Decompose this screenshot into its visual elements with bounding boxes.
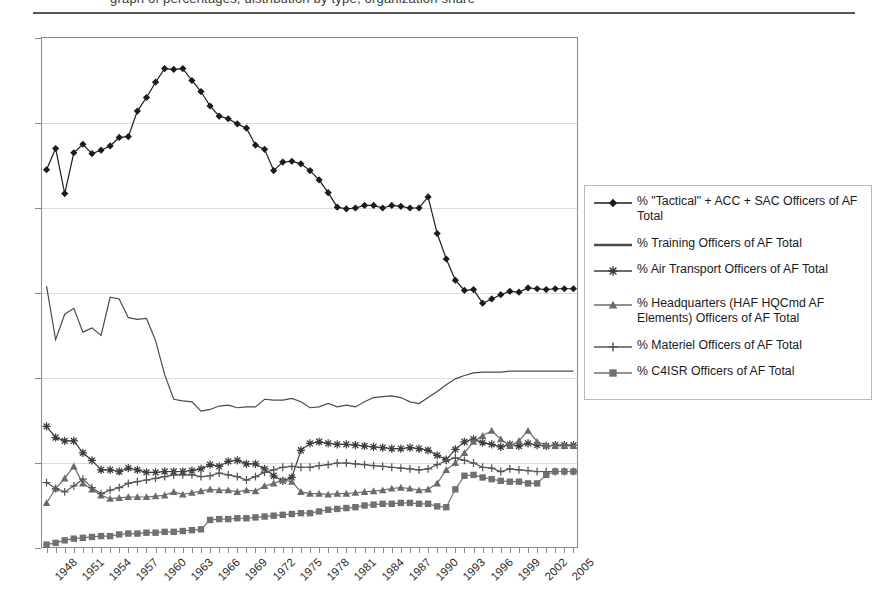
data-point-marker [180,528,186,534]
data-point-marker [243,125,250,132]
data-point-marker [106,466,114,474]
legend-item-label: % Materiel Officers of AF Total [635,338,802,353]
legend-item[interactable]: % Training Officers of AF Total [591,236,865,253]
data-point-marker [397,203,404,210]
data-point-marker [406,204,413,211]
data-point-marker [406,465,414,473]
data-point-marker [506,465,514,473]
data-point-marker [70,437,78,445]
data-point-marker [561,285,568,292]
data-point-marker [142,468,150,476]
data-point-marker [62,537,68,543]
data-point-marker [516,479,522,485]
data-point-marker [451,445,459,453]
data-point-marker [252,514,258,520]
data-point-marker [225,115,232,122]
data-point-marker [124,480,132,488]
data-point-marker [452,486,458,492]
data-point-marker [488,295,495,302]
data-point-marker [351,441,359,449]
data-point-marker [270,466,278,474]
legend-marker-asterisk-icon [591,263,635,279]
data-point-marker [133,478,141,486]
data-point-marker [234,120,241,127]
series-3 [42,422,577,485]
data-point-marker [533,468,541,476]
data-point-marker [352,460,360,468]
data-point-marker [379,444,387,452]
data-point-marker [397,464,405,472]
data-point-marker [207,517,213,523]
data-point-marker [497,443,505,451]
data-point-marker [88,456,96,464]
data-point-marker [315,438,323,446]
series-6 [43,468,576,548]
data-point-marker [543,472,549,478]
data-point-marker [270,480,278,487]
data-point-marker [397,444,405,452]
data-point-marker [552,468,558,474]
data-point-marker [79,449,87,457]
data-point-marker [189,527,195,533]
data-point-marker [316,508,322,514]
data-point-marker [224,471,232,479]
legend-item[interactable]: % "Tactical" + ACC + SAC Officers of AF … [591,194,865,223]
data-point-marker [152,79,159,86]
data-point-marker [261,468,269,476]
legend-item[interactable]: % C4ISR Officers of AF Total [591,364,865,381]
data-point-marker [479,432,487,439]
data-point-marker [43,166,50,173]
legend-item-label: % Headquarters (HAF HQCmd AF Elements) O… [635,296,865,325]
data-point-marker [488,427,496,434]
data-point-marker [515,466,523,474]
legend-item[interactable]: % Headquarters (HAF HQCmd AF Elements) O… [591,296,865,325]
data-point-marker [415,466,423,474]
data-point-marker [125,133,132,140]
data-point-marker [398,500,404,506]
data-point-marker [497,291,504,298]
data-point-marker [52,433,60,441]
data-point-marker [460,438,468,446]
data-point-marker [106,486,114,494]
data-point-marker [343,205,350,212]
data-point-marker [407,500,413,506]
data-point-marker [89,534,95,540]
data-point-marker [152,474,160,482]
data-point-marker [251,460,259,468]
data-point-marker [98,533,104,539]
data-point-marker [198,526,204,532]
figure-page: graph of percentages, distribution by ty… [0,0,891,611]
data-point-marker [261,513,267,519]
data-point-marker [224,457,232,465]
data-point-marker [233,456,241,464]
data-point-marker [497,468,505,476]
data-point-marker [288,158,295,165]
data-point-marker [252,142,259,149]
data-point-marker [388,444,396,452]
data-point-marker [280,512,286,518]
data-point-marker [443,255,450,262]
data-point-marker [97,466,105,474]
chart-area: 0%10%20%30%40%50%60%19481951195419571960… [0,18,600,578]
data-point-marker [125,530,131,536]
data-point-marker [197,473,205,481]
data-point-marker [215,462,223,470]
data-point-marker [434,230,441,237]
legend-item[interactable]: % Materiel Officers of AF Total [591,338,865,355]
data-point-marker [297,463,305,471]
data-point-marker [334,204,341,211]
data-point-marker [543,286,550,293]
legend-item[interactable]: % Air Transport Officers of AF Total [591,262,865,279]
data-point-marker [479,300,486,307]
legend-marker-diamond-icon [591,195,635,211]
data-point-marker [370,462,378,470]
data-point-marker [170,66,177,73]
header-divider [33,12,855,14]
data-point-marker [188,471,196,479]
data-point-marker [52,540,58,546]
data-point-marker [470,459,478,467]
data-point-marker [324,461,332,469]
data-point-marker [80,535,86,541]
data-point-marker [306,463,314,471]
legend-item-label: % C4ISR Officers of AF Total [635,364,794,379]
